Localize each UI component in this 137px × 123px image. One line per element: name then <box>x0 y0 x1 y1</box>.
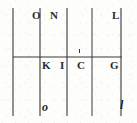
tick-above-c <box>79 49 80 53</box>
figure-label-l: L <box>112 10 120 21</box>
figure-label-n: N <box>50 10 58 21</box>
vertical-lines-group <box>13 8 121 116</box>
figure-label-c: C <box>77 60 85 71</box>
figure-label-g: G <box>110 60 119 71</box>
figure-label-k: K <box>42 60 51 71</box>
figure-label-i: I <box>60 60 64 71</box>
figure-label-o: O <box>32 10 41 21</box>
figure-label-o-lower: o <box>42 101 48 113</box>
geometric-figure: ONLKICGol <box>0 0 137 123</box>
figure-label-l-lower: l <box>120 99 123 111</box>
